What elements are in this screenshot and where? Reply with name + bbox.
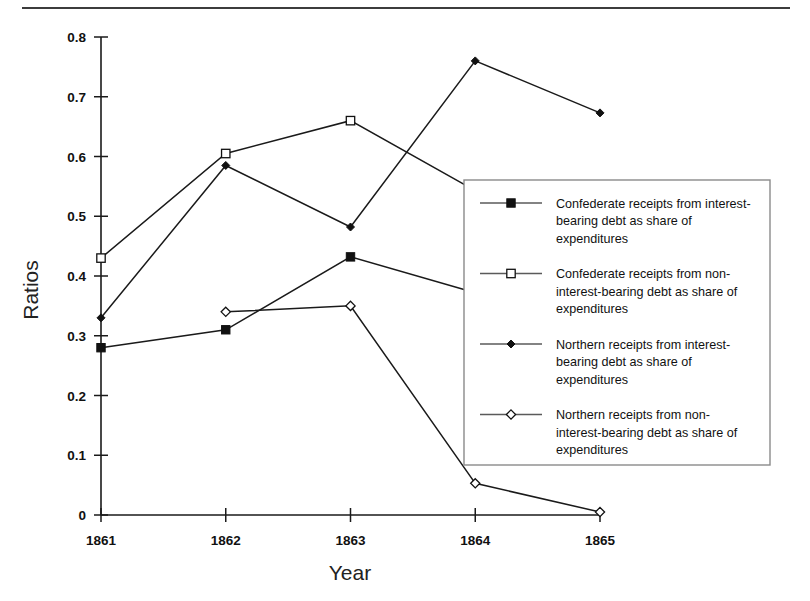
legend-label: bearing debt as share of xyxy=(556,214,692,228)
data-point-marker xyxy=(97,344,105,352)
y-tick-label: 0 xyxy=(78,508,86,523)
data-point-marker xyxy=(222,149,230,157)
data-point-marker xyxy=(596,109,604,117)
series xyxy=(97,116,480,262)
y-tick-label: 0.6 xyxy=(67,150,86,165)
legend-label: bearing debt as share of xyxy=(556,355,692,369)
legend-label: Confederate receipts from interest- xyxy=(556,197,751,211)
data-point-marker xyxy=(346,253,354,261)
legend: Confederate receipts from interest-beari… xyxy=(464,180,770,465)
series-polyline xyxy=(101,121,475,258)
legend-label: expenditures xyxy=(556,373,628,387)
line-chart: 00.10.20.30.40.50.60.70.8 18611862186318… xyxy=(0,0,810,601)
y-tick-label: 0.1 xyxy=(67,448,86,463)
legend-label: Confederate receipts from non- xyxy=(556,267,730,281)
y-tick-group: 00.10.20.30.40.50.60.70.8 xyxy=(67,30,108,523)
x-tick-group: 18611862186318641865 xyxy=(86,508,616,548)
x-tick-label: 1861 xyxy=(86,533,117,548)
data-point-marker xyxy=(221,307,230,316)
y-axis-title: Ratios xyxy=(19,260,42,320)
x-tick-label: 1862 xyxy=(211,533,241,548)
legend-label: Northern receipts from interest- xyxy=(556,338,730,352)
y-tick-label: 0.7 xyxy=(67,90,86,105)
series-polyline xyxy=(101,257,475,348)
y-tick-label: 0.5 xyxy=(67,209,86,224)
y-tick-label: 0.4 xyxy=(67,269,86,284)
legend-label: Northern receipts from non- xyxy=(556,408,710,422)
data-point-marker xyxy=(346,301,355,310)
x-tick-label: 1864 xyxy=(460,533,491,548)
legend-label: expenditures xyxy=(556,232,628,246)
data-point-marker xyxy=(471,479,480,488)
y-tick-label: 0.3 xyxy=(67,329,86,344)
data-point-marker xyxy=(222,326,230,334)
data-point-marker xyxy=(346,116,354,124)
legend-label: interest-bearing debt as share of xyxy=(556,426,738,440)
x-axis-title: Year xyxy=(329,561,371,584)
data-point-marker xyxy=(507,199,515,207)
y-tick-label: 0.8 xyxy=(67,30,86,45)
legend-label: expenditures xyxy=(556,443,628,457)
data-point-marker xyxy=(507,269,515,277)
series xyxy=(97,253,480,352)
x-tick-label: 1865 xyxy=(585,533,616,548)
figure-container: 00.10.20.30.40.50.60.70.8 18611862186318… xyxy=(0,0,810,601)
legend-label: expenditures xyxy=(556,302,628,316)
legend-label: interest-bearing debt as share of xyxy=(556,285,738,299)
data-point-marker xyxy=(97,254,105,262)
y-tick-label: 0.2 xyxy=(67,389,86,404)
x-tick-label: 1863 xyxy=(335,533,366,548)
